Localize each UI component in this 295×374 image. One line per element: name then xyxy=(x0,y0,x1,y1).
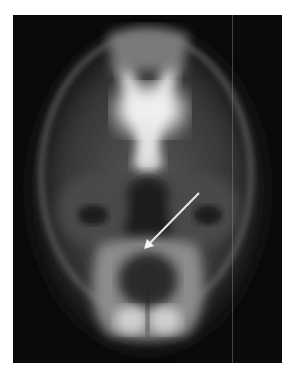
film-seam-line xyxy=(232,15,233,363)
radiograph-image xyxy=(13,15,282,363)
skull-xray xyxy=(13,15,282,363)
